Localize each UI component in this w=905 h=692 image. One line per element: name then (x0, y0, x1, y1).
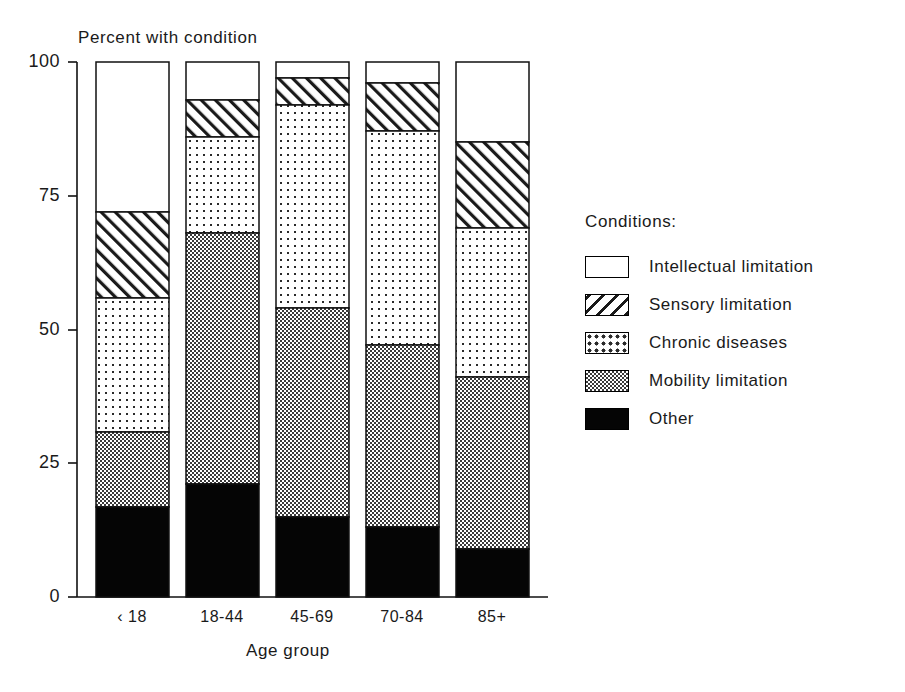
y-tick-label-50: 50 (14, 319, 60, 340)
legend-label: Mobility limitation (649, 371, 788, 391)
legend-swatch-dense-checker-icon (585, 370, 629, 392)
bar-segment-other[interactable] (276, 517, 349, 597)
legend-item-mobility-limitation[interactable]: Mobility limitation (585, 362, 895, 400)
bar-group-18-44[interactable] (186, 62, 259, 597)
bar-group-lt18[interactable] (96, 62, 169, 597)
bar-group-85plus[interactable] (456, 62, 529, 597)
bar-segment-mobility[interactable] (366, 345, 439, 527)
bar-group-70-84[interactable] (366, 62, 439, 597)
bar-segment-chronic[interactable] (276, 105, 349, 308)
y-tick-label-25: 25 (14, 452, 60, 473)
legend-label: Intellectual limitation (649, 257, 814, 277)
chart-figure: Percent with condition (0, 0, 905, 692)
bar-segment-intellectual[interactable] (276, 62, 349, 78)
x-tick-label-lt18: ‹ 18 (87, 608, 177, 626)
bar-segment-sensory[interactable] (366, 83, 439, 131)
y-axis-ticks (68, 62, 77, 597)
bar-group-45-69[interactable] (276, 62, 349, 597)
bar-segment-other[interactable] (456, 549, 529, 597)
bar-segment-sensory[interactable] (276, 78, 349, 105)
bar-segment-sensory[interactable] (186, 100, 259, 137)
legend-title: Conditions: (585, 212, 895, 232)
bar-segment-other[interactable] (366, 527, 439, 597)
bar-segment-chronic[interactable] (366, 131, 439, 345)
legend-label: Chronic diseases (649, 333, 787, 353)
legend-item-other[interactable]: Other (585, 400, 895, 438)
bar-segment-chronic[interactable] (186, 137, 259, 233)
x-tick-label-85plus: 85+ (447, 608, 537, 626)
x-axis-title: Age group (246, 641, 330, 661)
bar-segment-other[interactable] (96, 507, 169, 597)
bar-segment-mobility[interactable] (276, 308, 349, 517)
legend-item-chronic-diseases[interactable]: Chronic diseases (585, 324, 895, 362)
bar-segment-sensory[interactable] (456, 142, 529, 228)
bar-segment-intellectual[interactable] (96, 62, 169, 212)
x-tick-label-18-44: 18-44 (177, 608, 267, 626)
bar-segment-mobility[interactable] (96, 432, 169, 507)
bar-segment-mobility[interactable] (186, 233, 259, 484)
legend-swatch-solid-black-icon (585, 408, 629, 430)
bar-segment-chronic[interactable] (456, 228, 529, 377)
chart-legend: Conditions: Intellectual limitation Sens… (585, 212, 895, 438)
y-tick-label-75: 75 (14, 185, 60, 206)
bar-segment-intellectual[interactable] (456, 62, 529, 142)
legend-item-intellectual-limitation[interactable]: Intellectual limitation (585, 248, 895, 286)
legend-swatch-fine-dots-icon (585, 332, 629, 354)
x-tick-label-45-69: 45-69 (267, 608, 357, 626)
legend-swatch-blank-white-icon (585, 256, 629, 278)
bar-segment-sensory[interactable] (96, 212, 169, 298)
legend-label: Sensory limitation (649, 295, 792, 315)
bar-segment-other[interactable] (186, 484, 259, 597)
legend-swatch-diagonal-hatch-icon (585, 294, 629, 316)
legend-item-sensory-limitation[interactable]: Sensory limitation (585, 286, 895, 324)
bar-segment-chronic[interactable] (96, 298, 169, 432)
bar-segment-intellectual[interactable] (186, 62, 259, 100)
legend-label: Other (649, 409, 694, 429)
x-tick-label-70-84: 70-84 (357, 608, 447, 626)
y-tick-label-0: 0 (14, 586, 60, 607)
bar-segment-mobility[interactable] (456, 377, 529, 549)
y-tick-label-100: 100 (14, 51, 60, 72)
bar-segment-intellectual[interactable] (366, 62, 439, 83)
